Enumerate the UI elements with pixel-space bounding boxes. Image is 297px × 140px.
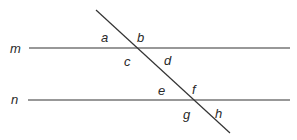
angle-b-label: b: [137, 30, 144, 45]
angle-h-label: h: [215, 106, 222, 121]
angle-a-label: a: [101, 30, 108, 45]
parallel-lines-transversal-diagram: m n a b c d e f g h: [0, 0, 297, 140]
angle-g-label: g: [183, 107, 191, 122]
transversal-line: [96, 10, 230, 133]
line-n-label: n: [11, 92, 18, 107]
angle-e-label: e: [158, 83, 165, 98]
angle-d-label: d: [164, 53, 172, 68]
angle-c-label: c: [124, 54, 131, 69]
angle-f-label: f: [192, 82, 197, 97]
line-m-label: m: [10, 41, 21, 56]
